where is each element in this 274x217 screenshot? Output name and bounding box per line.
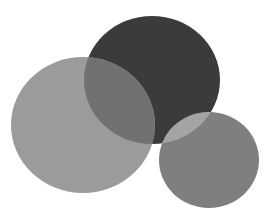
circles-illustration bbox=[0, 0, 274, 217]
circles-graphic bbox=[0, 0, 274, 217]
